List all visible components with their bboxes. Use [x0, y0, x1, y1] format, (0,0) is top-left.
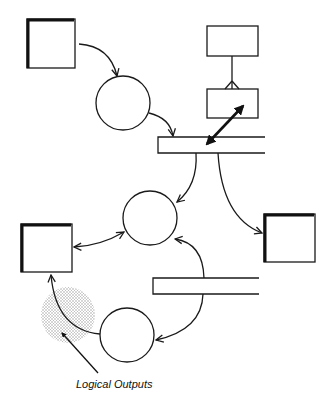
process-1-circle[interactable]	[96, 76, 150, 130]
crows-foot-connector	[225, 56, 239, 89]
flow-process-2-left-entity	[74, 232, 124, 247]
logical-outputs-highlight	[41, 287, 95, 343]
data-flow-diagram	[0, 0, 329, 406]
external-entity-left[interactable]	[21, 224, 72, 272]
entity-box-top[interactable]	[207, 26, 258, 56]
flow-store-2-to-process-2	[175, 239, 204, 278]
flow-process-1-to-store-1	[149, 113, 173, 136]
flow-store-1-to-process-2	[177, 153, 196, 202]
data-store-2[interactable]	[153, 278, 259, 294]
flow-store-2-to-process-3	[156, 294, 203, 340]
process-2-circle[interactable]	[123, 191, 177, 245]
entity-box-middle[interactable]	[207, 89, 258, 118]
external-entity-top-left[interactable]	[27, 19, 75, 68]
process-3-circle[interactable]	[100, 308, 154, 362]
external-entity-right[interactable]	[264, 214, 315, 262]
logical-outputs-label: Logical Outputs	[76, 378, 152, 390]
flow-entity-to-process-1	[79, 44, 117, 76]
flow-store-1-to-right-entity	[218, 153, 262, 233]
